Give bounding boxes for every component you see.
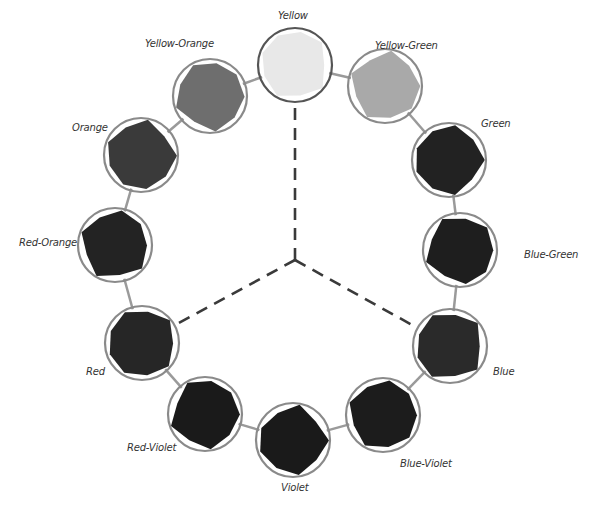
label-orange: Orange <box>72 122 108 133</box>
label-blue: Blue <box>493 366 514 377</box>
swatches <box>78 28 497 477</box>
paint-blob <box>350 381 418 448</box>
connector-line <box>408 112 426 133</box>
paint-blob <box>417 125 485 195</box>
dashed-line-to-red <box>175 260 295 325</box>
swatch-blue-violet <box>346 378 420 452</box>
swatch-green <box>412 123 486 197</box>
connector-line <box>407 371 425 390</box>
swatch-orange <box>104 118 178 192</box>
label-blue-green: Blue-Green <box>524 249 578 260</box>
label-yellow-orange: Yellow-Orange <box>145 38 214 49</box>
connector-line <box>453 195 456 216</box>
paint-blob <box>176 63 245 131</box>
paint-blob <box>260 405 329 475</box>
swatch-red <box>105 306 179 380</box>
paint-blob <box>82 210 148 276</box>
label-yellow: Yellow <box>278 10 308 21</box>
swatch-blue-green <box>423 213 497 287</box>
label-red: Red <box>86 366 105 377</box>
dashed-line-to-blue <box>295 260 417 328</box>
swatch-yellow <box>258 28 332 102</box>
swatch-yellow-green <box>348 49 422 123</box>
label-blue-violet: Blue-Violet <box>400 458 452 469</box>
swatch-violet <box>256 403 330 477</box>
primary-triad-dashed-lines <box>175 103 416 328</box>
label-yellow-green: Yellow-Green <box>375 40 438 51</box>
connector-line <box>329 73 351 78</box>
connector-line <box>165 369 182 388</box>
label-green: Green <box>481 118 511 129</box>
paint-blob <box>262 32 324 96</box>
connector-lines <box>124 73 456 431</box>
label-red-orange: Red-Orange <box>19 237 77 248</box>
connector-line <box>327 424 350 430</box>
connector-line <box>168 119 184 133</box>
paint-blob <box>110 312 173 376</box>
label-red-violet: Red-Violet <box>127 442 176 453</box>
color-wheel <box>0 0 595 510</box>
swatch-red-orange <box>78 208 152 282</box>
paint-blob <box>418 315 480 377</box>
swatch-red-violet <box>168 377 242 451</box>
paint-blob <box>351 51 420 118</box>
connector-line <box>125 189 132 212</box>
paint-blob <box>108 120 177 189</box>
swatch-blue <box>413 309 487 383</box>
paint-blob <box>171 381 240 449</box>
connector-line <box>239 424 260 430</box>
paint-blob <box>426 219 493 284</box>
swatch-yellow-orange <box>173 59 247 133</box>
connector-line <box>454 285 457 311</box>
label-violet: Violet <box>281 482 308 493</box>
connector-line <box>124 279 132 310</box>
